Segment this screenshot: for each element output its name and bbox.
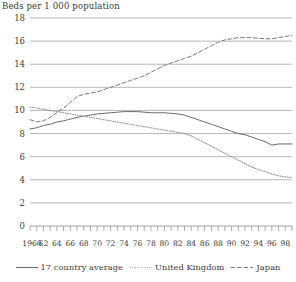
x-axis-labels-svg: 1960626466687072747678808284868890929496… (0, 236, 296, 258)
series-line (30, 35, 292, 122)
x-tick-label: 78 (146, 239, 156, 248)
legend-item-label: 17 country average (41, 262, 124, 272)
series-line (30, 107, 292, 177)
series-line (30, 112, 292, 146)
y-tick-label: 4 (20, 175, 25, 185)
y-tick-label: 16 (14, 36, 25, 46)
y-tick-label: 8 (20, 129, 25, 139)
x-axis (30, 226, 292, 231)
y-tick-label: 6 (20, 152, 25, 162)
x-tick-label: 88 (213, 239, 223, 248)
legend-line-swatch (231, 264, 253, 271)
x-tick-label: 62 (39, 239, 49, 248)
x-tick-label: 96 (267, 239, 277, 248)
y-axis-tick-labels: 024681012141618 (14, 13, 25, 231)
x-axis-tick-labels: 1960626466687072747678808284868890929496… (22, 239, 290, 248)
legend-item-label: Japan (256, 262, 280, 272)
chart-axis-title: Beds per 1 000 population (2, 1, 120, 11)
x-tick-label: 82 (173, 239, 183, 248)
legend-item-label: United Kingdom (155, 262, 224, 272)
x-tick-label: 84 (186, 239, 196, 248)
x-tick-label: 92 (240, 239, 250, 248)
legend-item[interactable]: United Kingdom (130, 262, 224, 272)
x-tick-label: 66 (65, 239, 75, 248)
gridlines (30, 18, 292, 226)
y-tick-label: 2 (20, 198, 25, 208)
legend-line-swatch (130, 264, 152, 271)
x-tick-label: 68 (79, 239, 89, 248)
legend-line-swatch (16, 264, 38, 271)
x-tick-label: 98 (280, 239, 290, 248)
x-tick-label: 72 (106, 239, 116, 248)
y-tick-label: 14 (14, 59, 25, 69)
x-tick-label: 86 (200, 239, 210, 248)
x-tick-label: 74 (119, 239, 129, 248)
chart-figure: Beds per 1 000 population 02468101214161… (0, 0, 296, 282)
plot-area: 024681012141618 196062646668707274767880… (0, 12, 296, 237)
x-tick-label: 80 (160, 239, 170, 248)
line-chart-svg: 024681012141618 (0, 12, 296, 237)
x-tick-label: 70 (92, 239, 102, 248)
data-series (30, 35, 292, 177)
y-tick-label: 10 (14, 105, 25, 115)
y-tick-label: 0 (20, 221, 25, 231)
chart-legend: 17 country averageUnited KingdomJapan (0, 258, 296, 276)
x-tick-label: 90 (227, 239, 237, 248)
x-tick-label: 64 (52, 239, 62, 248)
y-tick-label: 12 (14, 82, 25, 92)
x-tick-label: 94 (254, 239, 264, 248)
y-tick-label: 18 (14, 13, 25, 23)
legend-item[interactable]: 17 country average (16, 262, 124, 272)
x-tick-label: 76 (133, 239, 143, 248)
legend-item[interactable]: Japan (231, 262, 280, 272)
